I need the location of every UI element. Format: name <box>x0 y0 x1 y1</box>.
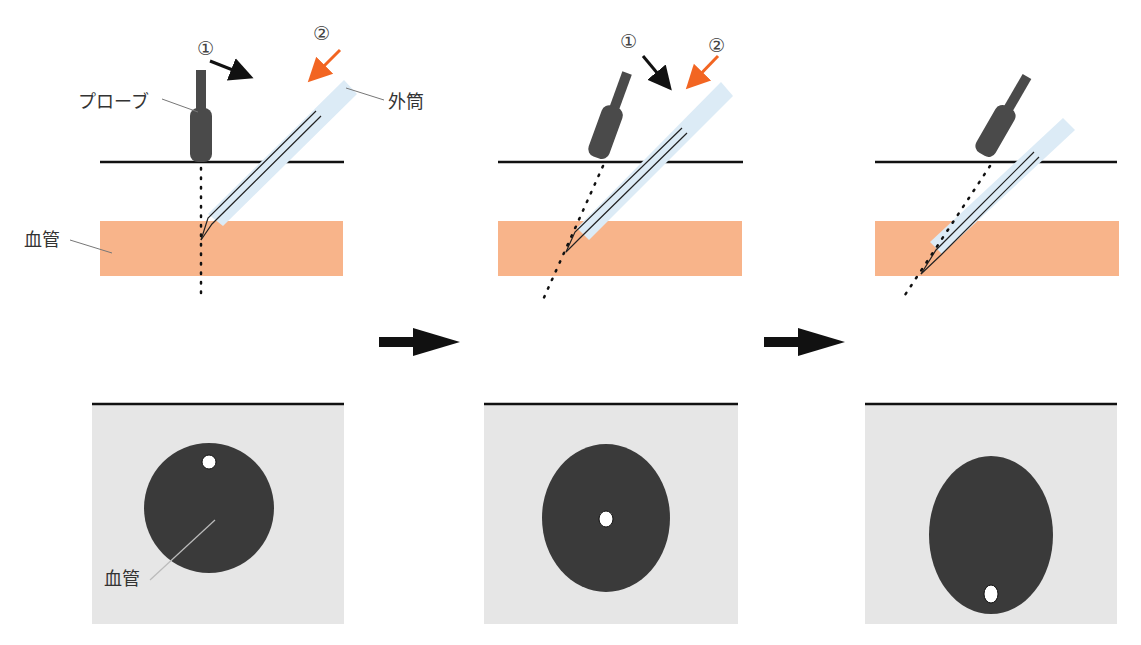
needle-tip-icon <box>202 455 216 469</box>
vessel-long-axis <box>498 221 742 276</box>
outer-sheath <box>208 80 357 226</box>
vessel-long-axis <box>100 221 343 276</box>
step1-label: ① <box>197 37 214 59</box>
probe-label: プローブ <box>78 91 149 112</box>
outer-sheath-label: 外筒 <box>388 91 424 112</box>
vessel-long-axis <box>875 221 1119 276</box>
arrow-step1 <box>210 61 248 76</box>
diagram-canvas: ① ② プローブ 外筒 血管 ① ② <box>0 0 1141 645</box>
probe-icon <box>972 71 1036 160</box>
short-axis-panel-2 <box>484 404 738 624</box>
short-axis-panel-3 <box>865 404 1117 624</box>
needle-tip-icon <box>984 585 998 603</box>
leader-line <box>162 99 198 112</box>
arrow-step2 <box>690 56 718 85</box>
short-axis-panel-1: 血管 <box>92 404 344 624</box>
long-axis-panel-1: ① ② プローブ 外筒 血管 <box>24 22 424 296</box>
vessel-long-label: 血管 <box>24 229 60 250</box>
step2-label: ② <box>313 22 330 44</box>
arrow-step2 <box>312 50 340 78</box>
next-step-arrow-2 <box>764 328 845 356</box>
probe-icon <box>586 69 637 161</box>
needle-tip-icon <box>599 511 613 527</box>
probe-icon <box>190 70 212 162</box>
arrow-step1 <box>643 56 668 86</box>
next-step-arrow-1 <box>379 328 460 356</box>
step1-label: ① <box>620 30 637 52</box>
step2-label: ② <box>708 34 725 56</box>
long-axis-panel-3 <box>875 71 1119 298</box>
vessel-short-label: 血管 <box>104 568 140 589</box>
long-axis-panel-2: ① ② <box>498 30 743 302</box>
